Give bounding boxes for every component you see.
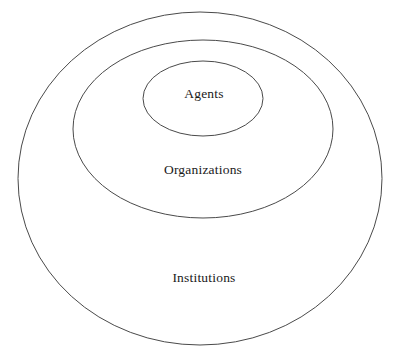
nested-ellipses-diagram: Institutions Organizations Agents [0,0,398,359]
label-agents: Agents [184,86,223,101]
label-institutions: Institutions [172,270,235,285]
label-organizations: Organizations [164,162,242,177]
diagram-canvas: Institutions Organizations Agents [0,0,398,359]
